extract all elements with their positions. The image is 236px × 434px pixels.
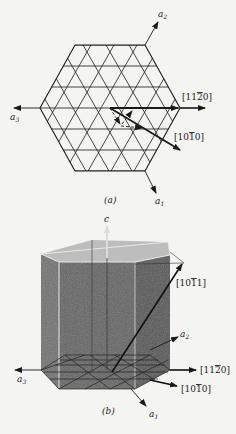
a2-label-b: a2: [180, 329, 189, 340]
direction-1010-label-b: [1010]: [181, 384, 211, 394]
a3-label: a3: [10, 112, 19, 123]
a3-label-b: a3: [17, 374, 26, 385]
direction-1120-label: [1120]: [182, 92, 212, 102]
panel-a-caption: (a): [104, 195, 117, 205]
direction-1010-label: [1010]: [174, 132, 204, 142]
hexagonal-indices-figure: a2 a3 a1 [1120] [1010] (a): [0, 0, 236, 434]
a1-label: a1: [155, 196, 164, 207]
a1-label-b: a1: [149, 409, 158, 420]
c-label: c: [104, 214, 109, 224]
a1-axis-arrow: [145, 171, 156, 193]
panel-b: c [1011] a2 a3 [1120] [1010] a1 (b): [15, 214, 230, 420]
a1-axis-arrow-b: [131, 389, 146, 406]
direction-1011-label: [1011]: [176, 278, 206, 288]
direction-1120-label-b: [1120]: [200, 365, 230, 375]
a2-label: a2: [158, 9, 167, 20]
panel-b-caption: (b): [102, 406, 115, 416]
panel-a: a2 a3 a1 [1120] [1010] (a): [0, 9, 236, 207]
a2-axis-arrow: [145, 22, 158, 45]
direction-1010-arrow-b: [150, 380, 177, 386]
